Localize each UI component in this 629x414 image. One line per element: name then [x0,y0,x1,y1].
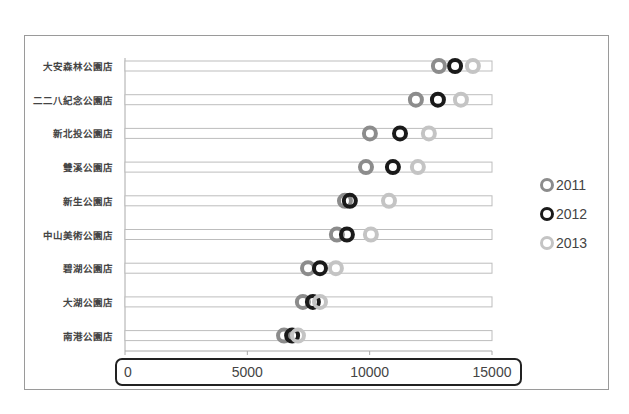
ring-marker-icon [540,236,554,250]
category-track [125,196,492,206]
x-tick-label: 15000 [473,364,512,380]
ring-marker-icon [540,178,554,192]
category-label: 大安森林公園店 [43,59,113,73]
legend-label: 2012 [556,206,587,222]
category-label: 南港公園店 [63,329,113,343]
category-label: 新北投公園店 [53,126,113,140]
legend-item-2012: 2012 [540,199,587,228]
legend-item-2013: 2013 [540,228,587,257]
category-label: 碧湖公園店 [63,261,113,275]
category-track [125,263,492,273]
legend-item-2011: 2011 [540,170,587,199]
category-track [125,95,492,105]
category-track [125,162,492,172]
x-tick-label: 10000 [350,364,389,380]
category-track [125,230,492,240]
category-track [125,331,492,341]
category-label: 雙溪公園店 [63,160,113,174]
category-label: 新生公園店 [63,194,113,208]
x-tick-label: 0 [124,364,132,380]
legend-label: 2013 [556,235,587,251]
ring-marker-icon [540,207,554,221]
category-track [125,128,492,138]
legend: 201120122013 [540,170,587,257]
category-label: 中山美術公園店 [43,228,113,242]
category-label: 二二八紀念公園店 [33,93,113,107]
x-tick-label: 5000 [232,364,263,380]
category-label: 大湖公園店 [63,295,113,309]
legend-label: 2011 [556,177,586,193]
x-axis-highlight-box [115,358,522,386]
